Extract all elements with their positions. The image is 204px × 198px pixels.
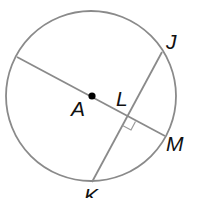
label-J: J xyxy=(166,31,177,52)
center-point-A xyxy=(88,92,95,99)
label-A: A xyxy=(71,98,85,119)
diagram-canvas: J L A M K xyxy=(0,0,204,198)
label-K: K xyxy=(84,185,98,198)
label-M: M xyxy=(166,133,184,154)
label-L: L xyxy=(116,88,128,109)
chord-JK xyxy=(92,52,162,182)
